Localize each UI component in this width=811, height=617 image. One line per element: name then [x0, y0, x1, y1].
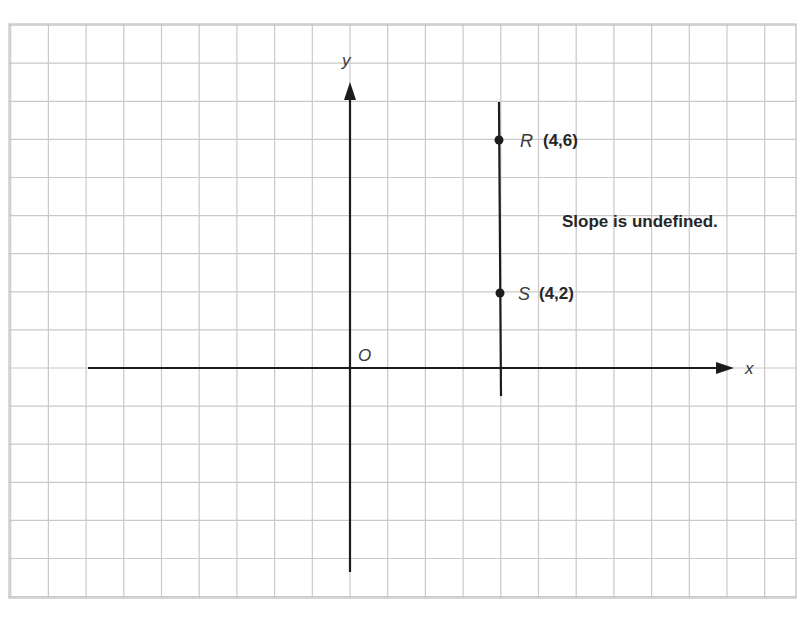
point-r-dot	[495, 136, 504, 145]
point-s: S (4,2)	[496, 284, 574, 304]
point-s-name: S	[518, 284, 530, 304]
point-r: R (4,6)	[495, 131, 578, 151]
point-r-coordinates: (4,6)	[543, 131, 578, 150]
axes: x y O	[88, 51, 754, 572]
origin-label: O	[358, 346, 371, 365]
coordinate-plane-figure: x y O R (4,6) S (4,2) Slope is undefined…	[0, 0, 811, 617]
point-s-coordinates: (4,2)	[539, 284, 574, 303]
graph-paper-diagram: x y O R (4,6) S (4,2) Slope is undefined…	[0, 0, 811, 617]
y-axis-arrow-icon	[344, 82, 356, 100]
x-axis-label: x	[744, 359, 754, 378]
point-r-name: R	[520, 131, 533, 151]
grid	[9, 24, 796, 598]
grid-border	[9, 24, 796, 598]
x-axis-arrow-icon	[716, 362, 734, 374]
slope-annotation: Slope is undefined.	[562, 212, 718, 231]
point-s-dot	[496, 289, 505, 298]
y-axis-label: y	[341, 51, 352, 70]
